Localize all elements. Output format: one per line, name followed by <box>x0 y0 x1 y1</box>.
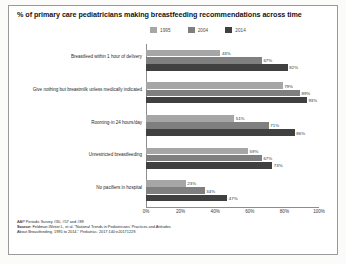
legend-swatch-2014 <box>225 27 232 33</box>
bar-value-label: 89% <box>300 90 310 95</box>
x-tick-label: 100% <box>313 209 325 214</box>
bar-group: 59%67%73% <box>146 148 319 169</box>
legend-swatch-1995 <box>150 27 157 33</box>
bar-row: 86% <box>146 129 319 136</box>
legend-item-1995: 1995 <box>150 27 171 33</box>
slide-canvas: % of primary care pediatricians making b… <box>0 0 346 264</box>
bar-row: 73% <box>146 162 319 169</box>
footnote-citation-line2: About Breastfeeding. 1995 to 2014.” Pedi… <box>17 229 317 234</box>
x-tick-label: 80% <box>280 209 289 214</box>
bar-2014[interactable] <box>146 64 288 71</box>
bar-value-label: 93% <box>307 98 317 103</box>
bar-2004[interactable] <box>146 155 262 162</box>
chart-plot-area: 43%67%82%79%89%93%51%71%86%59%67%73%23%3… <box>146 44 319 207</box>
chart-legend: 1995 2004 2014 <box>150 27 246 33</box>
bar-group: 51%71%86% <box>146 115 319 136</box>
bar-value-label: 86% <box>295 130 305 135</box>
bar-row: 89% <box>146 90 319 97</box>
x-tick-label: 0% <box>143 209 150 214</box>
bar-value-label: 59% <box>248 148 258 153</box>
bar-row: 79% <box>146 82 319 89</box>
legend-label-2004: 2004 <box>198 28 209 33</box>
footnote-journal-name: Pediatrics. <box>80 229 98 234</box>
bar-value-label: 82% <box>288 65 298 70</box>
bar-2014[interactable] <box>146 195 227 202</box>
bar-group: 79%89%93% <box>146 82 319 103</box>
legend-item-2014: 2014 <box>225 27 246 33</box>
chart-footnotes: AAP Periodic Survey #30, #57 and #89 Sou… <box>17 219 317 235</box>
bar-1995[interactable] <box>146 115 234 122</box>
bar-row: 67% <box>146 57 319 64</box>
bar-value-label: 79% <box>283 83 293 88</box>
bar-group: 23%34%47% <box>146 180 319 201</box>
bar-row: 82% <box>146 64 319 71</box>
bar-1995[interactable] <box>146 82 283 89</box>
bar-value-label: 47% <box>227 195 237 200</box>
bar-2004[interactable] <box>146 90 300 97</box>
category-axis-labels: Breastfeed within 1 hour of deliveryGive… <box>20 44 142 207</box>
bar-row: 43% <box>146 50 319 57</box>
bar-1995[interactable] <box>146 148 248 155</box>
bar-row: 67% <box>146 155 319 162</box>
bar-value-label: 43% <box>220 51 230 56</box>
category-label: Unrestricted breastfeeding <box>22 152 142 158</box>
bar-value-label: 67% <box>262 156 272 161</box>
category-label: Rooming-in 24 hours/day <box>22 120 142 126</box>
bar-1995[interactable] <box>146 180 186 187</box>
footnote-citation-title: About Breastfeeding. 1995 to 2014.” <box>17 229 80 234</box>
bar-row: 34% <box>146 187 319 194</box>
footnote-citation-locator: 2017;140:e20171229. <box>98 229 137 234</box>
bar-row: 71% <box>146 122 319 129</box>
bar-row: 23% <box>146 180 319 187</box>
bar-group: 43%67%82% <box>146 50 319 71</box>
category-label: Breastfeed within 1 hour of delivery <box>22 54 142 60</box>
x-tick-label: 20% <box>176 209 185 214</box>
bar-value-label: 73% <box>272 163 282 168</box>
bar-2004[interactable] <box>146 187 205 194</box>
category-label: Give nothing but breastmilk unless medic… <box>22 87 142 93</box>
bar-2014[interactable] <box>146 162 272 169</box>
x-tick-label: 60% <box>245 209 254 214</box>
bar-value-label: 34% <box>205 188 215 193</box>
bar-value-label: 23% <box>186 181 196 186</box>
bar-row: 93% <box>146 97 319 104</box>
category-axis-line <box>146 207 319 208</box>
bar-value-label: 51% <box>234 116 244 121</box>
bar-2014[interactable] <box>146 129 295 136</box>
legend-item-2004: 2004 <box>188 27 209 33</box>
bar-1995[interactable] <box>146 50 220 57</box>
legend-label-1995: 1995 <box>160 28 171 33</box>
chart-title: % of primary care pediatricians making b… <box>17 10 327 19</box>
bar-2004[interactable] <box>146 122 269 129</box>
bar-row: 51% <box>146 115 319 122</box>
bar-2004[interactable] <box>146 57 262 64</box>
legend-label-2014: 2014 <box>235 28 246 33</box>
category-label: No pacifiers in hospital <box>22 185 142 191</box>
bar-value-label: 71% <box>269 123 279 128</box>
bar-row: 59% <box>146 148 319 155</box>
x-tick-label: 40% <box>211 209 220 214</box>
legend-swatch-2004 <box>188 27 195 33</box>
bar-value-label: 67% <box>262 58 272 63</box>
value-axis-tick-labels: 0%20%40%60%80%100% <box>146 209 319 218</box>
bar-row: 47% <box>146 195 319 202</box>
bar-2014[interactable] <box>146 97 307 104</box>
